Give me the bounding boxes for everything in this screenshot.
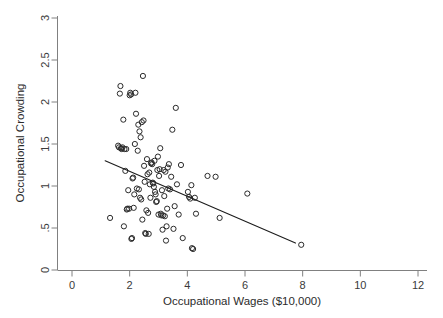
data-point [174,182,179,187]
data-point [173,105,178,110]
data-point [126,188,131,193]
data-point [158,146,163,151]
y-axis-ticks: 0.511.522.53 [39,15,58,273]
data-point [245,191,250,196]
data-point [135,148,140,153]
data-point [185,189,190,194]
plot-canvas: 024681012 0.511.522.53 Occupational Wage… [0,0,443,318]
data-point [107,215,112,220]
data-point [193,211,198,216]
data-point [171,226,176,231]
data-point [178,162,183,167]
data-point [165,206,170,211]
data-point [213,174,218,179]
data-point [162,193,167,198]
data-point [217,215,222,220]
x-tick-label: 10 [354,279,366,291]
x-axis-ticks: 024681012 [69,271,424,292]
y-tick-label: 1.5 [39,136,51,151]
data-point [142,179,147,184]
data-point [133,111,138,116]
data-point [162,214,167,219]
regression-fit-line [105,161,295,243]
data-point [132,192,137,197]
y-tick-label: 3 [39,15,51,21]
y-tick-label: 2 [39,99,51,105]
x-tick-label: 4 [184,279,190,291]
x-tick-label: 2 [127,279,133,291]
axes-group [58,16,428,271]
y-tick-label: 1 [39,183,51,189]
data-point [164,224,169,229]
data-point [117,91,122,96]
data-point [176,212,181,217]
y-axis-title: Occupational Crowding [14,84,26,203]
x-tick-label: 0 [69,279,75,291]
y-tick-label: .5 [39,223,51,232]
scatter-plot-figure: 024681012 0.511.522.53 Occupational Wage… [0,0,443,318]
data-point [169,174,174,179]
data-point [189,183,194,188]
data-point [140,73,145,78]
data-point [121,117,126,122]
data-point [299,242,304,247]
data-point [205,173,210,178]
x-tick-label: 8 [300,279,306,291]
data-point [138,135,143,140]
data-point [165,165,170,170]
data-points-layer [107,73,303,251]
y-tick-label: 0 [39,267,51,273]
data-point [121,224,126,229]
data-point [163,238,168,243]
data-point [144,157,149,162]
data-point [132,141,137,146]
data-point [170,127,175,132]
data-point [137,129,142,134]
data-point [156,173,161,178]
data-point [118,83,123,88]
data-point [166,162,171,167]
x-axis-title: Occupational Wages ($10,000) [163,295,321,307]
y-tick-label: 2.5 [39,52,51,67]
data-point [140,217,145,222]
data-point [148,195,153,200]
data-point [159,188,164,193]
x-tick-label: 6 [242,279,248,291]
data-point [141,163,146,168]
x-tick-label: 12 [412,279,424,291]
data-point [180,235,185,240]
data-point [155,154,160,159]
data-point [139,197,144,202]
data-point [172,204,177,209]
